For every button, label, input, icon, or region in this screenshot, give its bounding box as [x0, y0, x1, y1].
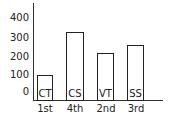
x-label-3rd: 3rd [124, 103, 148, 114]
bar-ss: SS [127, 45, 144, 101]
bar-vt: VT [97, 53, 114, 101]
x-label-1st: 1st [33, 103, 57, 114]
bar-cs: CS [66, 32, 84, 101]
bar-ct: CT [37, 75, 53, 101]
bar-label-cs: CS [67, 88, 83, 99]
y-axis [33, 3, 34, 101]
y-tick-100: 100 [0, 70, 29, 80]
bar-label-vt: VT [98, 88, 113, 99]
x-label-2nd: 2nd [94, 103, 118, 114]
bar-label-ss: SS [128, 88, 143, 99]
y-tick-0: 0 [0, 87, 29, 97]
y-tick-300: 300 [0, 33, 29, 43]
y-tick-200: 200 [0, 52, 29, 62]
bar-label-ct: CT [38, 88, 52, 99]
y-tick-400: 400 [0, 13, 29, 23]
x-label-4th: 4th [63, 103, 87, 114]
